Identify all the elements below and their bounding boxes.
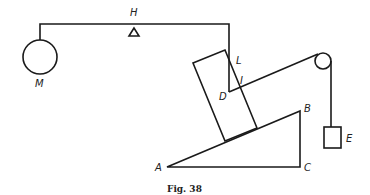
- mass-m-circle: [23, 40, 57, 74]
- label-c: C: [304, 162, 311, 173]
- label-e: E: [346, 133, 353, 144]
- figure-caption: Fig. 38: [167, 184, 202, 194]
- rope-to-pulley: [229, 54, 318, 92]
- label-l: L: [236, 55, 242, 66]
- label-a: A: [154, 162, 162, 173]
- label-b: B: [304, 103, 311, 114]
- fulcrum-h-triangle: [129, 28, 139, 36]
- label-i: I: [240, 75, 243, 86]
- mechanics-diagram: H M L I D B E A C Fig. 38: [0, 0, 370, 195]
- incline-abc: [167, 111, 300, 167]
- label-h: H: [130, 7, 138, 18]
- pulley: [315, 53, 331, 69]
- label-m: M: [35, 78, 44, 89]
- label-d: D: [219, 91, 227, 102]
- weight-e-box: [324, 127, 341, 148]
